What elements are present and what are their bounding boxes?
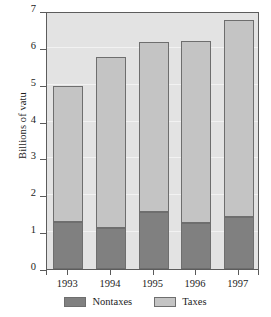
legend-swatch (64, 297, 86, 307)
x-tick-label: 1995 (135, 278, 171, 289)
bar-group[interactable] (96, 12, 126, 269)
y-tick-label: 6 (31, 41, 36, 52)
plot-area (46, 12, 259, 270)
legend-item-nontaxes[interactable]: Nontaxes (64, 296, 132, 307)
bar-segment-taxes[interactable] (96, 57, 126, 228)
bar-segment-taxes[interactable] (139, 42, 169, 212)
y-tick-label: 5 (31, 78, 36, 89)
bar-segment-taxes[interactable] (53, 86, 83, 222)
bar-group[interactable] (224, 12, 254, 269)
bar-group[interactable] (53, 12, 83, 269)
legend-item-taxes[interactable]: Taxes (154, 296, 206, 307)
bar-group[interactable] (181, 12, 211, 269)
x-tick-label: 1996 (177, 278, 213, 289)
bar-segment-nontaxes[interactable] (181, 223, 211, 269)
y-axis: 01234567 (0, 0, 46, 317)
bar-segment-nontaxes[interactable] (224, 217, 254, 269)
x-axis-end-mark (258, 270, 259, 275)
bar-group[interactable] (139, 12, 169, 269)
x-axis-end-mark (46, 270, 47, 275)
legend-swatch (154, 297, 176, 307)
legend-label: Nontaxes (92, 296, 132, 307)
y-tick-label: 1 (31, 225, 36, 236)
chart-legend: NontaxesTaxes (0, 296, 271, 307)
bar-segment-taxes[interactable] (181, 41, 211, 223)
x-tick-mark (153, 270, 154, 275)
y-tick-label: 4 (31, 115, 36, 126)
y-tick-label: 3 (31, 151, 36, 162)
bars-layer (47, 13, 258, 269)
x-tick-label: 1994 (92, 278, 128, 289)
bar-segment-taxes[interactable] (224, 20, 254, 216)
y-tick-label: 7 (31, 4, 36, 15)
x-tick-mark (67, 270, 68, 275)
x-tick-label: 1997 (220, 278, 256, 289)
y-tick-label: 2 (31, 188, 36, 199)
y-tick-label: 0 (31, 262, 36, 273)
x-tick-mark (195, 270, 196, 275)
bar-segment-nontaxes[interactable] (53, 222, 83, 269)
x-tick-mark (238, 270, 239, 275)
bar-segment-nontaxes[interactable] (139, 212, 169, 269)
stacked-bar-chart: Billions of vatu 01234567 19931994199519… (0, 0, 271, 317)
x-tick-label: 1993 (49, 278, 85, 289)
legend-label: Taxes (182, 296, 206, 307)
x-tick-mark (110, 270, 111, 275)
bar-segment-nontaxes[interactable] (96, 228, 126, 269)
